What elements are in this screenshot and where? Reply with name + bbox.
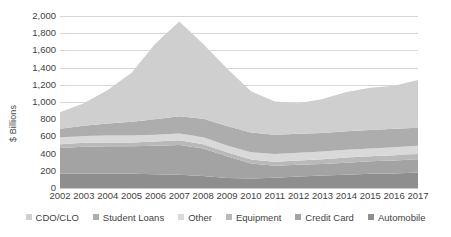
y-tick-label: 1,400 (18, 63, 56, 73)
area-series-group (60, 16, 418, 188)
y-tick-label: 600 (18, 131, 56, 141)
legend-item[interactable]: Credit Card (295, 212, 354, 223)
legend-label: Other (188, 212, 212, 223)
legend-swatch-icon (226, 214, 232, 220)
y-tick-label: 2,000 (18, 11, 56, 21)
x-axis-tick-labels: 2002200320042005200620072008200920102011… (60, 190, 418, 204)
legend-item[interactable]: Automobile (368, 212, 426, 223)
legend-label: Credit Card (305, 212, 354, 223)
plot-area (60, 16, 418, 188)
y-tick-label: 1,200 (18, 80, 56, 90)
y-tick-label: 400 (18, 149, 56, 159)
stacked-area-chart: $ Billions 2,0001,8001,6001,4001,2001,00… (0, 0, 451, 237)
legend-label: CDO/CLO (36, 212, 79, 223)
x-tick-label: 2003 (73, 190, 94, 202)
x-tick-label: 2008 (193, 190, 214, 202)
legend-swatch-icon (93, 214, 99, 220)
y-tick-label: 1,600 (18, 45, 56, 55)
y-tick-label: 800 (18, 114, 56, 124)
x-tick-label: 2006 (145, 190, 166, 202)
legend-item[interactable]: Student Loans (93, 212, 164, 223)
legend-swatch-icon (368, 214, 374, 220)
legend-label: Automobile (378, 212, 426, 223)
x-tick-label: 2014 (336, 190, 357, 202)
legend-item[interactable]: Equipment (226, 212, 281, 223)
x-tick-label: 2007 (169, 190, 190, 202)
x-tick-label: 2004 (97, 190, 118, 202)
y-axis-tick-labels: 2,0001,8001,6001,4001,2001,0008006004002… (18, 10, 56, 194)
x-tick-label: 2011 (265, 190, 285, 202)
x-tick-label: 2002 (49, 190, 70, 202)
x-tick-label: 2012 (288, 190, 309, 202)
area-series-cdo-clo (60, 22, 418, 135)
legend-label: Equipment (236, 212, 281, 223)
legend-swatch-icon (26, 214, 32, 220)
legend-swatch-icon (295, 214, 301, 220)
y-tick-label: 1,800 (18, 28, 56, 38)
x-tick-label: 2005 (121, 190, 142, 202)
gridline (60, 188, 418, 189)
legend-item[interactable]: CDO/CLO (26, 212, 79, 223)
legend-swatch-icon (178, 214, 184, 220)
x-tick-label: 2010 (240, 190, 261, 202)
x-tick-label: 2015 (360, 190, 381, 202)
x-tick-label: 2017 (407, 190, 428, 202)
y-tick-label: 200 (18, 166, 56, 176)
y-tick-label: 1,000 (18, 97, 56, 107)
x-tick-label: 2016 (384, 190, 405, 202)
legend-label: Student Loans (103, 212, 164, 223)
legend-item[interactable]: Other (178, 212, 212, 223)
x-tick-label: 2009 (216, 190, 237, 202)
x-tick-label: 2013 (312, 190, 333, 202)
chart-legend: CDO/CLOStudent LoansOtherEquipmentCredit… (0, 209, 451, 225)
